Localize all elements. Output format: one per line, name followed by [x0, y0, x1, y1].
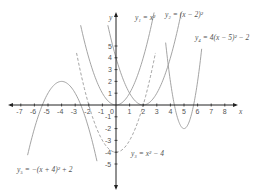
- x-tick-label: -5: [44, 108, 50, 115]
- curve-y1: [81, 12, 154, 105]
- x-tick-label: 5: [182, 108, 186, 115]
- label-y1: y₁ = x²: [134, 13, 156, 22]
- x-tick-label: 3: [155, 108, 159, 115]
- x-tick-label: -7: [16, 108, 22, 115]
- y-tick-label: -4: [105, 149, 111, 156]
- y-tick-label: 5: [108, 43, 112, 50]
- x-axis-left-arrow-icon: [8, 103, 13, 107]
- equation-labels: y₁ = x²y₂ = (x − 2)²y₃ = x² − 4y₄ = 4(x …: [16, 10, 249, 174]
- function-graph: -7-6-5-4-3-2-112345678 -5-4-3-2-112345 0…: [0, 0, 255, 192]
- x-tick-label: -1: [98, 108, 104, 115]
- y-axis-down-arrow-icon: [114, 185, 118, 190]
- y-tick-label: 4: [108, 54, 112, 61]
- origin-label: 0: [110, 108, 114, 115]
- y-tick-label: 1: [108, 90, 112, 97]
- label-y3: y₃ = x² − 4: [130, 149, 164, 158]
- x-axis-label: x: [238, 107, 243, 116]
- x-tick-label: -3: [71, 108, 77, 115]
- y-tick-label: 2: [108, 78, 112, 85]
- x-tick-label: -2: [84, 108, 90, 115]
- y-axis-label: y: [108, 13, 113, 22]
- x-tick-label: -6: [30, 108, 36, 115]
- curves: [28, 12, 202, 161]
- y-tick-label: -2: [105, 125, 111, 132]
- y-tick-label: -3: [105, 137, 111, 144]
- x-tick-label: 4: [168, 108, 172, 115]
- x-tick-label: 1: [128, 108, 132, 115]
- x-tick-label: 7: [209, 108, 213, 115]
- x-tick-label: -4: [57, 108, 63, 115]
- y-tick-label: 3: [108, 66, 112, 73]
- y-axis-up-arrow-icon: [114, 12, 118, 17]
- x-axis-right-arrow-icon: [233, 103, 238, 107]
- x-tick-label: 2: [141, 108, 145, 115]
- curve-y5: [28, 81, 97, 161]
- label-y2: y₂ = (x − 2)²: [164, 10, 204, 19]
- curve-y2: [108, 12, 181, 105]
- label-y5: y₅ = −(x + 4)² + 2: [16, 165, 73, 174]
- y-tick-label: -5: [105, 161, 111, 168]
- x-tick-label: 6: [196, 108, 200, 115]
- label-y4: y₄ = 4(x − 5)² − 2: [194, 33, 249, 42]
- x-tick-label: 8: [223, 108, 227, 115]
